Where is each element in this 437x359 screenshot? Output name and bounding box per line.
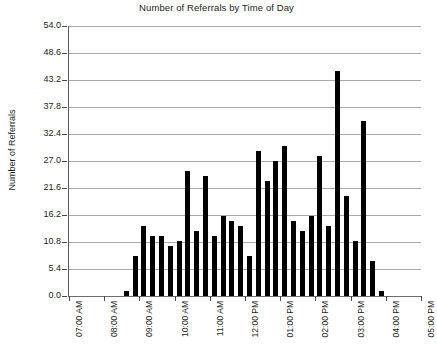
- x-axis-tick: [245, 296, 246, 301]
- x-axis-tick: [210, 296, 211, 301]
- x-axis-tick-label: 04:00 PM: [390, 301, 402, 357]
- y-axis-tick: [62, 296, 67, 297]
- x-axis-tick: [280, 296, 281, 301]
- bar: [361, 121, 366, 296]
- bar: [177, 241, 182, 296]
- y-axis-tick-label: 32.4: [17, 129, 61, 138]
- x-axis-tick: [315, 296, 316, 301]
- bar: [344, 196, 349, 296]
- x-axis-tick-label: 05:00 PM: [425, 301, 437, 357]
- y-axis-tick: [62, 242, 67, 243]
- y-axis-tick-label: 10.8: [17, 237, 61, 246]
- bar: [221, 216, 226, 296]
- plot-area: [69, 26, 421, 296]
- y-axis-tick: [62, 188, 67, 189]
- y-axis-tick: [62, 53, 67, 54]
- x-axis-tick-label: 03:00 PM: [355, 301, 367, 357]
- y-axis-tick: [62, 107, 67, 108]
- y-axis-tick-labels: 0.05.410.816.221.627.032.437.843.248.654…: [13, 26, 61, 296]
- x-axis-tick-label: 10:00 AM: [179, 301, 191, 357]
- bar: [150, 236, 155, 296]
- x-axis-tick: [139, 296, 140, 301]
- y-axis-tick: [62, 134, 67, 135]
- y-axis-tick-label: 37.8: [17, 102, 61, 111]
- bar: [335, 71, 340, 296]
- x-axis-tick-label: 07:00 AM: [73, 301, 85, 357]
- bar: [133, 256, 138, 296]
- gridline: [69, 269, 421, 270]
- x-axis-tick: [351, 296, 352, 301]
- bar: [265, 181, 270, 296]
- gridline: [69, 80, 421, 81]
- y-axis-tick: [62, 215, 67, 216]
- gridline: [69, 53, 421, 54]
- bar: [309, 216, 314, 296]
- bar: [273, 161, 278, 296]
- gridline: [69, 26, 421, 27]
- x-axis-tick-label: 09:00 AM: [143, 301, 155, 357]
- bar: [168, 246, 173, 296]
- x-axis-tick-label: 11:00 AM: [214, 301, 226, 357]
- y-axis-tick: [62, 80, 67, 81]
- gridline: [69, 215, 421, 216]
- x-axis-tick: [421, 296, 422, 301]
- bar: [185, 171, 190, 296]
- y-axis-tick-label: 5.4: [17, 264, 61, 273]
- y-axis-tick: [62, 26, 67, 27]
- x-axis-tick-label: 02:00 PM: [319, 301, 331, 357]
- x-axis-tick-label: 01:00 PM: [284, 301, 296, 357]
- bar: [212, 236, 217, 296]
- gridline: [69, 242, 421, 243]
- bar: [203, 176, 208, 296]
- bar: [141, 226, 146, 296]
- x-axis-ticks: [69, 296, 421, 302]
- bar: [238, 226, 243, 296]
- bar: [229, 221, 234, 296]
- x-axis-tick: [175, 296, 176, 301]
- y-axis-tick-label: 27.0: [17, 156, 61, 165]
- y-axis-tick: [62, 161, 67, 162]
- bar: [326, 226, 331, 296]
- y-axis-tick-label: 54.0: [17, 21, 61, 30]
- y-axis-tick-label: 0.0: [17, 291, 61, 300]
- y-axis-tick-label: 16.2: [17, 210, 61, 219]
- x-axis-tick-labels: 07:00 AM08:00 AM09:00 AM10:00 AM11:00 AM…: [69, 303, 421, 359]
- gridline: [69, 161, 421, 162]
- chart-title: Number of Referrals by Time of Day: [0, 2, 433, 13]
- gridline: [69, 188, 421, 189]
- x-axis-tick: [386, 296, 387, 301]
- y-axis-tick-label: 21.6: [17, 183, 61, 192]
- y-axis-tick-label: 43.2: [17, 75, 61, 84]
- bar: [194, 231, 199, 296]
- gridline: [69, 134, 421, 135]
- x-axis-tick-label: 12:00 PM: [249, 301, 261, 357]
- bar: [282, 146, 287, 296]
- y-axis-tick-label: 48.6: [17, 48, 61, 57]
- x-axis-tick-label: 08:00 AM: [108, 301, 120, 357]
- gridline: [69, 107, 421, 108]
- bar: [256, 151, 261, 296]
- x-axis-tick: [104, 296, 105, 301]
- bar: [317, 156, 322, 296]
- bar: [247, 256, 252, 296]
- bar: [370, 261, 375, 296]
- y-axis-tick: [62, 269, 67, 270]
- bar: [159, 236, 164, 296]
- bar: [291, 221, 296, 296]
- bar: [353, 241, 358, 296]
- x-axis-tick: [69, 296, 70, 301]
- bar: [300, 231, 305, 296]
